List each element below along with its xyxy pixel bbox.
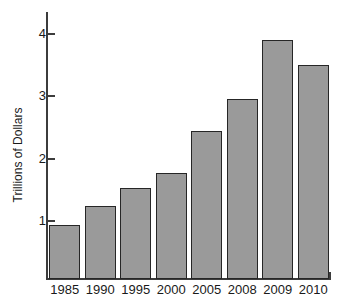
bar-1990 bbox=[85, 206, 116, 279]
bar-2005 bbox=[191, 131, 222, 279]
x-tick-label-2000: 2000 bbox=[154, 283, 190, 296]
bar-1995 bbox=[120, 188, 151, 279]
bar-2010 bbox=[298, 65, 329, 279]
x-tick-label-2010: 2010 bbox=[296, 283, 332, 296]
x-tick-label-1995: 1995 bbox=[118, 283, 154, 296]
y-tick-label-2: 2 bbox=[24, 152, 46, 165]
x-tick-label-2008: 2008 bbox=[225, 283, 261, 296]
x-tick-label-2005: 2005 bbox=[189, 283, 225, 296]
plot-area bbox=[47, 12, 331, 279]
bar-chart: 1234 Trillions of Dollars 19851990199520… bbox=[0, 0, 346, 307]
bar-1985 bbox=[49, 225, 80, 279]
y-tick-label-3: 3 bbox=[24, 89, 46, 102]
x-tick-label-1985: 1985 bbox=[47, 283, 83, 296]
bar-2008 bbox=[227, 99, 258, 279]
x-tick-label-2009: 2009 bbox=[260, 283, 296, 296]
bar-2000 bbox=[156, 173, 187, 279]
y-tick-label-4: 4 bbox=[24, 27, 46, 40]
y-tick-label-1: 1 bbox=[24, 214, 46, 227]
x-tick-label-1990: 1990 bbox=[83, 283, 119, 296]
y-axis-title: Trillions of Dollars bbox=[11, 65, 25, 245]
x-axis-labels: 19851990199520002005200820092010 bbox=[47, 283, 331, 303]
bar-2009 bbox=[262, 40, 293, 279]
